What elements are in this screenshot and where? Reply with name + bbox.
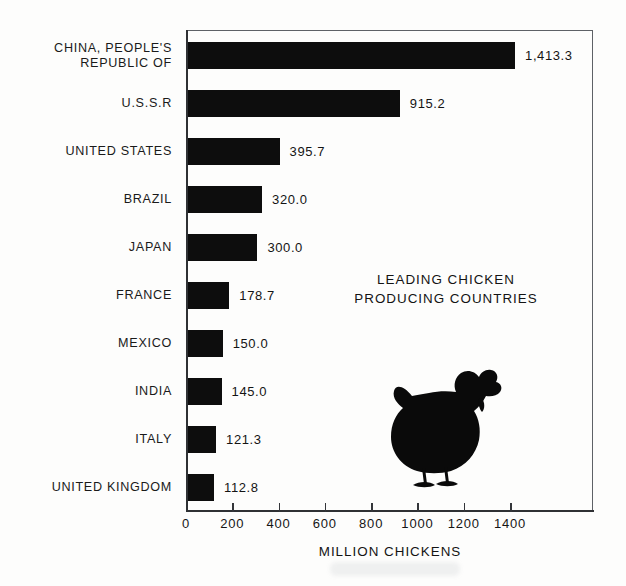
x-tick-mark bbox=[417, 503, 419, 512]
category-label: CHINA, PEOPLE'SREPUBLIC OF bbox=[0, 41, 180, 71]
x-axis-ticks: 0200400600800100012001400 bbox=[186, 512, 594, 542]
category-label: MEXICO bbox=[0, 336, 180, 351]
bar bbox=[188, 282, 229, 309]
bar-value-label: 320.0 bbox=[272, 186, 308, 213]
chart-title: LEADING CHICKENPRODUCING COUNTRIES bbox=[328, 270, 564, 308]
bar bbox=[188, 42, 515, 69]
chart-title-line-0: LEADING CHICKEN bbox=[328, 270, 564, 289]
bar-value-label: 395.7 bbox=[290, 138, 326, 165]
bar-value-label: 112.8 bbox=[224, 474, 259, 501]
scan-artifact bbox=[330, 562, 460, 576]
category-label-line-0: U.S.S.R bbox=[0, 96, 172, 111]
category-label: UNITED KINGDOM bbox=[0, 480, 180, 495]
category-label-line-0: INDIA bbox=[0, 384, 172, 399]
x-tick-label: 600 bbox=[313, 516, 337, 531]
category-label-line-0: JAPAN bbox=[0, 240, 172, 255]
x-axis-title: MILLION CHICKENS bbox=[186, 544, 594, 559]
bar bbox=[188, 90, 400, 117]
category-label: INDIA bbox=[0, 384, 180, 399]
bar-value-label: 915.2 bbox=[410, 90, 446, 117]
bar-value-label: 178.7 bbox=[239, 282, 275, 309]
category-label-line-0: UNITED KINGDOM bbox=[0, 480, 172, 495]
category-label: JAPAN bbox=[0, 240, 180, 255]
category-label: ITALY bbox=[0, 432, 180, 447]
bar bbox=[188, 234, 257, 261]
x-tick-mark bbox=[371, 503, 373, 512]
bar bbox=[188, 186, 262, 213]
x-tick-mark bbox=[510, 503, 512, 512]
bar bbox=[188, 426, 216, 453]
x-tick-mark bbox=[325, 503, 327, 512]
x-tick-label: 0 bbox=[182, 516, 190, 531]
category-label-line-0: CHINA, PEOPLE'S bbox=[0, 41, 172, 56]
bar bbox=[188, 378, 222, 405]
x-tick-label: 1200 bbox=[448, 516, 480, 531]
category-label-line-0: MEXICO bbox=[0, 336, 172, 351]
bar bbox=[188, 474, 214, 501]
bar bbox=[188, 138, 280, 165]
category-label: U.S.S.R bbox=[0, 96, 180, 111]
x-tick-label: 1000 bbox=[401, 516, 433, 531]
bar-value-label: 300.0 bbox=[267, 234, 303, 261]
category-label: FRANCE bbox=[0, 288, 180, 303]
chicken-silhouette-icon bbox=[382, 358, 522, 496]
category-label-line-0: BRAZIL bbox=[0, 192, 172, 207]
category-label-line-0: ITALY bbox=[0, 432, 172, 447]
x-tick-label: 800 bbox=[359, 516, 383, 531]
bar-value-label: 121.3 bbox=[226, 426, 262, 453]
bar-value-label: 150.0 bbox=[233, 330, 269, 357]
category-axis-labels: CHINA, PEOPLE'SREPUBLIC OFU.S.S.RUNITED … bbox=[0, 30, 180, 510]
chart-page: CHINA, PEOPLE'SREPUBLIC OFU.S.S.RUNITED … bbox=[0, 0, 626, 586]
category-label-line-0: FRANCE bbox=[0, 288, 172, 303]
x-tick-label: 400 bbox=[267, 516, 291, 531]
x-tick-label: 1400 bbox=[494, 516, 526, 531]
x-tick-label: 200 bbox=[220, 516, 244, 531]
bar-value-label: 145.0 bbox=[232, 378, 268, 405]
x-tick-mark bbox=[464, 503, 466, 512]
x-tick-mark bbox=[279, 503, 281, 512]
category-label: BRAZIL bbox=[0, 192, 180, 207]
bar bbox=[188, 330, 223, 357]
category-label: UNITED STATES bbox=[0, 144, 180, 159]
x-tick-mark bbox=[232, 503, 234, 512]
bar-value-label: 1,413.3 bbox=[525, 42, 573, 69]
chart-title-line-1: PRODUCING COUNTRIES bbox=[328, 289, 564, 308]
category-label-line-0: UNITED STATES bbox=[0, 144, 172, 159]
category-label-line-1: REPUBLIC OF bbox=[0, 56, 172, 71]
